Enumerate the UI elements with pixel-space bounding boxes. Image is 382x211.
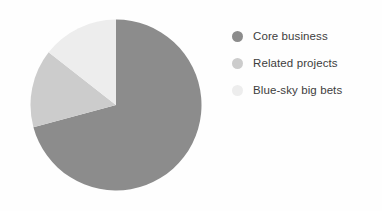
legend-item-blue-sky-big-bets[interactable]: Blue-sky big bets [232, 78, 380, 102]
legend-label-related-projects: Related projects [253, 57, 338, 70]
legend-item-related-projects[interactable]: Related projects [232, 51, 380, 75]
legend-item-core-business[interactable]: Core business [232, 24, 380, 48]
chart-legend: Core business Related projects Blue-sky … [232, 24, 380, 105]
legend-swatch-icon-blue-sky-big-bets [232, 85, 243, 96]
legend-label-blue-sky-big-bets: Blue-sky big bets [253, 84, 342, 97]
pie-chart-plot-area [30, 19, 202, 191]
legend-swatch-icon-core-business [232, 31, 243, 42]
pie-svg [30, 19, 202, 191]
pie-chart-figure: Core business Related projects Blue-sky … [0, 0, 382, 211]
legend-label-core-business: Core business [253, 30, 328, 43]
pie-slice-group [30, 20, 201, 191]
legend-swatch-icon-related-projects [232, 58, 243, 69]
